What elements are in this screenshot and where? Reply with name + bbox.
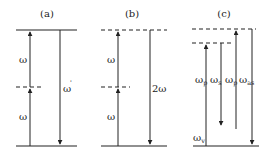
label-omega-lower: ω [19,111,27,122]
panel-a: (a) ω ω ω ' [16,8,77,146]
panel-c: (c) ωp ωs ωp ωas ωv [192,8,259,146]
label-omega-p1: ωp [195,74,207,87]
panel-b-title: (b) [125,8,139,19]
panel-b: (b) ω ω 2ω [101,8,167,146]
energy-level-diagram: (a) ω ω ω ' (b) ω ω 2ω (c) ωp ωs ωp [0,0,265,157]
label-prime-mark: ' [70,79,72,87]
panel-c-title: (c) [217,8,231,19]
label-2omega: 2ω [152,83,167,94]
label-omega-s: ωs [210,74,222,87]
label-omega-upper: ω [19,54,27,65]
panel-a-title: (a) [40,8,54,19]
label-omega-upper: ω [107,54,115,65]
label-omega-lower: ω [107,111,115,122]
label-omega-p2: ωp [225,74,237,87]
label-omega-v: ωv [193,132,205,145]
